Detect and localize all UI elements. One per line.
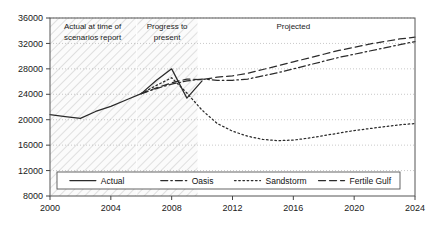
x-tick-label: 2020 [344, 203, 364, 213]
annotation-label: scenarios report [64, 33, 122, 42]
legend-label-oasis: Oasis [192, 176, 214, 186]
line-chart: 800012000160002000024000280003200036000 … [0, 0, 433, 234]
shaded-bands [50, 18, 198, 196]
y-tick-label: 24000 [18, 89, 43, 99]
annotation-label: Projected [276, 22, 310, 31]
y-tick-label: 16000 [18, 140, 43, 150]
x-tick-label: 2012 [222, 203, 242, 213]
y-tick-label: 20000 [18, 115, 43, 125]
progress-to-present-band [137, 18, 198, 196]
legend-label-fertile-gulf: Fertile Gulf [350, 176, 392, 186]
chart-container: 800012000160002000024000280003200036000 … [0, 0, 433, 234]
y-tick-label: 8000 [23, 191, 43, 201]
x-axis-ticks: 2000200420082012201620202024 [40, 196, 425, 213]
legend-label-actual: Actual [101, 176, 125, 186]
annotation-label: Actual at time of [64, 22, 122, 31]
actual-at-time-of-report-band [50, 18, 137, 196]
x-tick-label: 2024 [405, 203, 425, 213]
x-tick-label: 2004 [101, 203, 121, 213]
y-tick-label: 32000 [18, 39, 43, 49]
y-tick-label: 28000 [18, 64, 43, 74]
x-tick-label: 2008 [162, 203, 182, 213]
legend-label-sandstorm: Sandstorm [266, 176, 307, 186]
y-axis-ticks: 800012000160002000024000280003200036000 [18, 13, 50, 201]
y-tick-label: 12000 [18, 166, 43, 176]
annotation-label: Progress to [147, 22, 188, 31]
y-tick-label: 36000 [18, 13, 43, 23]
chart-legend: ActualOasisSandstormFertile Gulf [57, 172, 400, 189]
x-tick-label: 2000 [40, 203, 60, 213]
annotation-label: present [154, 33, 181, 42]
x-tick-label: 2016 [283, 203, 303, 213]
